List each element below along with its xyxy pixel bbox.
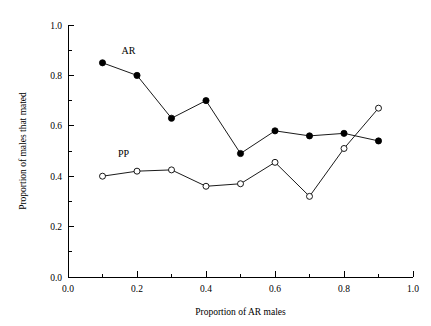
data-point <box>272 128 278 134</box>
y-tick-label: 0.8 <box>50 71 62 81</box>
data-point <box>134 72 140 78</box>
y-tick-label: 0.6 <box>50 121 62 131</box>
x-tick-label: 0.8 <box>338 284 350 294</box>
chart-container: 0.00.20.40.60.81.00.00.20.40.60.81.0 ARP… <box>0 0 431 326</box>
data-series <box>99 60 381 200</box>
y-tick-label: 1.0 <box>50 21 62 31</box>
data-point <box>238 181 244 187</box>
y-tick-label: 0.2 <box>50 222 62 232</box>
data-point <box>341 145 347 151</box>
data-point <box>203 98 209 104</box>
series-label-pp: PP <box>118 148 130 159</box>
x-tick-label: 1.0 <box>407 284 419 294</box>
data-point <box>168 115 174 121</box>
data-point <box>203 183 209 189</box>
data-point <box>134 168 140 174</box>
y-axis-title: Proportion of males that mated <box>18 92 28 210</box>
data-point <box>376 105 382 111</box>
data-point <box>375 138 381 144</box>
x-tick-label: 0.6 <box>269 284 281 294</box>
x-axis-title: Proportion of AR males <box>195 307 286 317</box>
series-label-ar: AR <box>121 45 135 56</box>
data-point <box>307 193 313 199</box>
data-point <box>272 159 278 165</box>
series-line-ar <box>103 63 379 154</box>
data-point <box>99 60 105 66</box>
y-tick-label: 0.4 <box>50 172 62 182</box>
x-tick-label: 0.2 <box>131 284 143 294</box>
line-chart: 0.00.20.40.60.81.00.00.20.40.60.81.0 ARP… <box>0 0 431 326</box>
data-point <box>237 150 243 156</box>
series-ar <box>99 60 381 157</box>
x-tick-label: 0.4 <box>200 284 212 294</box>
data-point <box>341 130 347 136</box>
data-point <box>169 167 175 173</box>
data-point <box>306 133 312 139</box>
series-labels: ARPP <box>118 45 136 159</box>
x-tick-label: 0.0 <box>62 284 74 294</box>
data-point <box>100 173 106 179</box>
y-tick-label: 0.0 <box>50 273 62 283</box>
